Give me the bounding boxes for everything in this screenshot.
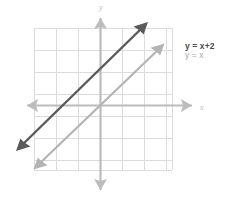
x-axis	[27, 99, 192, 112]
x-axis-label: x	[200, 104, 204, 112]
coordinate-plane	[0, 0, 235, 198]
legend-entry-line-2: y = x	[185, 51, 233, 60]
line-y-equals-x-plus-2	[16, 22, 148, 151]
legend: y = x+2 y = x	[185, 42, 233, 60]
graph-figure: y x y = x+2 y = x	[0, 0, 235, 198]
y-axis-label: y	[99, 4, 103, 12]
